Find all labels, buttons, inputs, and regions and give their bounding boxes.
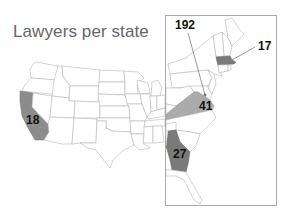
state-nebraska[interactable] <box>98 94 129 106</box>
leader-line-ma <box>232 47 255 60</box>
state-arkansas[interactable] <box>130 121 145 134</box>
state-ohio[interactable] <box>157 95 165 110</box>
state-wyoming[interactable] <box>69 86 99 102</box>
state-wisconsin[interactable] <box>137 80 150 94</box>
state-massachusetts[interactable] <box>216 56 236 65</box>
state-indiana[interactable] <box>150 96 157 112</box>
label-dc: 192 <box>175 18 195 32</box>
state-kansas[interactable] <box>100 106 130 118</box>
state-new-york[interactable] <box>168 36 222 76</box>
state-michigan[interactable] <box>151 80 162 96</box>
us-map: 18 192 17 41 27 <box>0 0 293 211</box>
label-georgia: 27 <box>173 147 187 161</box>
state-oregon[interactable] <box>22 78 56 94</box>
state-connecticut[interactable] <box>218 65 228 73</box>
state-north-dakota[interactable] <box>99 70 125 82</box>
label-california: 18 <box>26 113 40 127</box>
state-rhode-island[interactable] <box>228 65 231 71</box>
label-massachusetts: 17 <box>258 39 272 53</box>
state-iowa[interactable] <box>125 94 142 104</box>
state-florida[interactable] <box>166 170 202 204</box>
state-montana[interactable] <box>62 66 100 86</box>
state-new-mexico[interactable] <box>72 118 97 144</box>
state-mississippi[interactable] <box>143 126 153 143</box>
state-alabama[interactable] <box>153 126 164 143</box>
state-south-dakota[interactable] <box>98 82 125 95</box>
state-colorado[interactable] <box>74 101 100 118</box>
state-washington[interactable] <box>30 62 58 80</box>
main-map <box>20 62 165 168</box>
label-virginia: 41 <box>199 99 213 113</box>
